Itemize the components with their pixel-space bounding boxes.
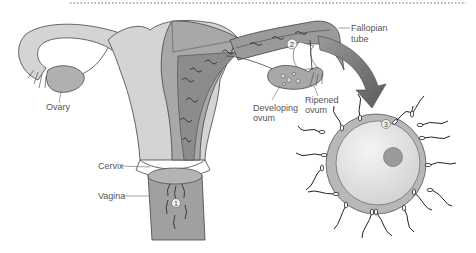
label-fallopian-tube-1: Fallopian: [351, 23, 388, 33]
reproductive-diagram: 2 1 3: [0, 0, 476, 253]
label-cervix: Cervix: [98, 161, 124, 171]
label-vagina: Vagina: [98, 191, 125, 201]
svg-text:2: 2: [290, 40, 295, 49]
svg-text:1: 1: [174, 200, 178, 207]
label-developing-ovum-1: Developing: [253, 103, 298, 113]
label-ripened-ovum-1: Ripened: [305, 95, 339, 105]
label-ovary: Ovary: [46, 102, 70, 112]
cervix: [148, 168, 202, 184]
svg-text:3: 3: [384, 121, 388, 128]
label-ripened-ovum-2: ovum: [305, 105, 327, 115]
label-fallopian-tube-2: tube: [351, 34, 369, 44]
uterus: [108, 20, 238, 160]
label-developing-ovum-2: ovum: [253, 113, 275, 123]
nucleus: [384, 148, 403, 167]
